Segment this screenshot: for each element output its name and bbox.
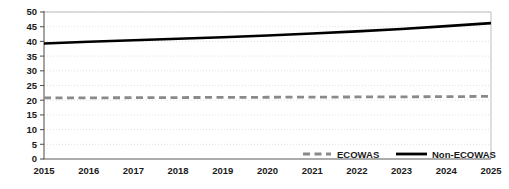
chart-canvas: 05101520253035404550 2015201620172018201… (0, 0, 509, 189)
x-tick-label: 2018 (168, 165, 189, 176)
y-tick-label: 15 (26, 109, 37, 120)
x-tick-label: 2019 (212, 165, 233, 176)
x-tick-label: 2020 (257, 165, 278, 176)
x-tick-label: 2022 (346, 165, 367, 176)
line-chart: 05101520253035404550 2015201620172018201… (0, 0, 509, 189)
x-tick-label: 2021 (302, 165, 324, 176)
y-tick-label: 40 (26, 36, 37, 47)
x-tick-label: 2025 (480, 165, 502, 176)
y-tick-label: 0 (32, 153, 37, 164)
x-tick-label: 2023 (391, 165, 412, 176)
chart-background (0, 0, 509, 189)
x-tick-label: 2017 (123, 165, 144, 176)
x-tick-label: 2024 (436, 165, 458, 176)
y-tick-label: 45 (26, 21, 37, 32)
y-tick-label: 25 (26, 80, 37, 91)
y-tick-label: 5 (32, 139, 38, 150)
legend-label-ecowas: ECOWAS (337, 149, 379, 160)
y-tick-label: 10 (26, 124, 37, 135)
legend-label-non-ecowas: Non-ECOWAS (432, 149, 496, 160)
x-tick-label: 2015 (33, 165, 55, 176)
y-tick-label: 30 (26, 65, 37, 76)
x-tick-label: 2016 (78, 165, 99, 176)
y-tick-label: 35 (26, 51, 37, 62)
y-tick-label: 50 (26, 6, 37, 17)
y-tick-label: 20 (26, 95, 37, 106)
